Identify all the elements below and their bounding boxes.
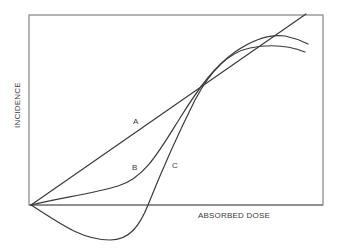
dose-response-chart: A B C ABSORBED DOSE INCIDENCE bbox=[0, 0, 339, 251]
curve-b bbox=[31, 36, 308, 205]
y-axis-label: INCIDENCE bbox=[13, 82, 22, 128]
curve-b-label: B bbox=[132, 163, 137, 172]
curve-a bbox=[31, 14, 306, 205]
plot-frame bbox=[29, 15, 323, 205]
x-axis-label: ABSORBED DOSE bbox=[198, 211, 270, 220]
curve-c-label: C bbox=[172, 161, 178, 170]
curve-a-label: A bbox=[133, 117, 139, 126]
